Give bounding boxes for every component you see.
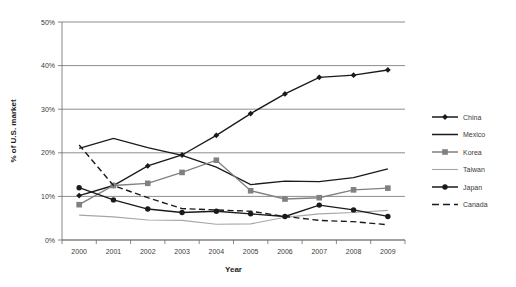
ytick-label-0: 0% [45, 237, 55, 244]
xtick-label-2008: 2008 [346, 248, 362, 255]
datapoint-china-2007 [316, 74, 322, 80]
legend-label-korea: Korea [463, 149, 482, 156]
series-japan [76, 185, 390, 219]
xtick-label-2003: 2003 [174, 248, 190, 255]
datapoint-japan-2001 [111, 197, 116, 202]
datapoint-china-2009 [385, 67, 391, 73]
datapoint-china-2000 [76, 193, 82, 199]
legend-item-mexico[interactable]: Mexico [432, 131, 485, 138]
datapoint-japan-2002 [145, 206, 150, 211]
legend-item-japan[interactable]: Japan [432, 184, 482, 192]
series-mexico [79, 138, 388, 184]
x-axis-title: Year [225, 265, 242, 274]
chart-container: 0%10%20%30%40%50%20002001200220032004200… [0, 0, 516, 287]
datapoint-japan-2005 [248, 211, 253, 216]
legend-label-canada: Canada [463, 201, 488, 208]
ytick-label-30: 30% [41, 106, 55, 113]
ytick-label-20: 20% [41, 149, 55, 156]
datapoint-korea-2008 [351, 187, 357, 193]
datapoint-china-2006 [282, 91, 288, 97]
ytick-label-10: 10% [41, 193, 55, 200]
datapoint-korea-2000 [76, 202, 82, 208]
datapoint-japan-2003 [179, 210, 184, 215]
legend-item-canada[interactable]: Canada [432, 201, 488, 208]
xtick-label-2006: 2006 [277, 248, 293, 255]
datapoint-korea-2002 [145, 181, 151, 187]
datapoint-china-2002 [145, 163, 151, 169]
datapoint-korea-2007 [316, 195, 322, 201]
datapoint-korea-2003 [179, 170, 185, 176]
line-chart: 0%10%20%30%40%50%20002001200220032004200… [0, 0, 516, 287]
legend-label-china: China [463, 114, 481, 121]
legend-item-taiwan[interactable]: Taiwan [432, 166, 485, 173]
datapoint-china-2008 [351, 72, 357, 78]
legend-label-japan: Japan [463, 184, 482, 192]
legend-label-mexico: Mexico [463, 131, 485, 138]
legend-marker-japan [442, 184, 447, 189]
series-line-china [79, 70, 388, 196]
y-axis-title: % of U.S. market [9, 99, 18, 162]
legend-item-china[interactable]: China [432, 114, 481, 121]
xtick-label-2004: 2004 [209, 248, 225, 255]
datapoint-korea-2005 [248, 188, 254, 194]
xtick-label-2000: 2000 [71, 248, 87, 255]
legend-marker-korea [442, 149, 448, 155]
ytick-label-40: 40% [41, 62, 55, 69]
xtick-label-2002: 2002 [140, 248, 156, 255]
datapoint-korea-2004 [214, 157, 220, 163]
series-line-mexico [79, 138, 388, 184]
xtick-label-2001: 2001 [106, 248, 122, 255]
datapoint-japan-2009 [385, 214, 390, 219]
datapoint-korea-2006 [282, 196, 288, 202]
series-line-korea [79, 160, 388, 204]
datapoint-japan-2008 [351, 207, 356, 212]
xtick-label-2005: 2005 [243, 248, 259, 255]
series-korea [76, 157, 390, 207]
datapoint-japan-2000 [76, 185, 81, 190]
datapoint-korea-2009 [385, 185, 391, 191]
ytick-label-50: 50% [41, 19, 55, 26]
legend-marker-china [442, 114, 448, 120]
xtick-label-2009: 2009 [380, 248, 396, 255]
xtick-label-2007: 2007 [311, 248, 327, 255]
datapoint-japan-2007 [317, 202, 322, 207]
legend-item-korea[interactable]: Korea [432, 149, 482, 156]
legend-label-taiwan: Taiwan [463, 166, 485, 173]
